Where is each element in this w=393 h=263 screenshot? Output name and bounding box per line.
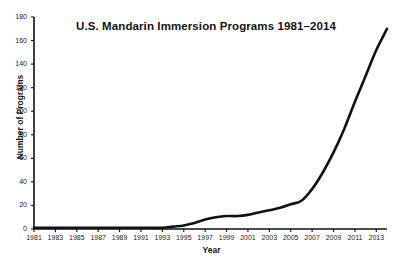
y-axis-tick-label: 0 [1, 225, 27, 233]
plot-area [0, 0, 393, 263]
y-axis-tick-label: 40 [1, 178, 27, 186]
chart-container: U.S. Mandarin Immersion Programs 1981–20… [0, 0, 393, 263]
y-axis-tick-label: 80 [1, 131, 27, 139]
y-axis-tick-label: 160 [1, 37, 27, 45]
y-axis-tick-label: 120 [1, 84, 27, 92]
y-axis-tick-label: 180 [1, 13, 27, 21]
y-axis-tick-label: 140 [1, 60, 27, 68]
y-axis-tick-label: 20 [1, 201, 27, 209]
y-axis-tick-label: 60 [1, 154, 27, 162]
x-axis-tick-label: 2013 [361, 234, 391, 242]
data-series-line [34, 29, 387, 228]
y-axis-tick-label: 100 [1, 107, 27, 115]
